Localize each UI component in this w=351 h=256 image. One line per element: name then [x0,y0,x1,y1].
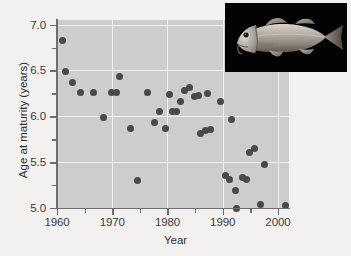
y-axis-tick [50,208,56,209]
x-axis-minor-tick [195,209,196,213]
x-axis-title: Year [0,234,351,246]
fish-icon [225,3,347,72]
gridline-horizontal [57,162,289,163]
x-axis-tick-label: 1980 [145,216,189,228]
gridline-vertical [112,20,113,208]
data-point [127,125,134,132]
x-axis-tick-label: 1990 [201,216,245,228]
y-axis-tick [50,116,56,117]
data-point [195,92,202,99]
data-point [232,187,239,194]
y-axis-minor-tick [52,139,56,140]
data-point [90,89,97,96]
x-axis-minor-tick [85,209,86,213]
x-axis-tick [167,209,168,215]
data-point [173,108,180,115]
y-axis-tick-label: 5.5 [0,156,46,168]
data-point [144,89,151,96]
cod-photograph-inset [225,3,347,72]
x-axis-line [56,208,290,210]
data-point [69,79,76,86]
y-axis-tick [50,25,56,26]
data-point [134,177,141,184]
y-axis-minor-tick [52,93,56,94]
x-axis-minor-tick [140,209,141,213]
x-axis-minor-tick [250,209,251,213]
data-point [186,84,193,91]
gridline-vertical [167,20,168,208]
x-axis-tick [57,209,58,215]
x-axis-tick [112,209,113,215]
gridline-vertical [223,20,224,208]
data-point [100,114,107,121]
gridline-horizontal [57,116,289,117]
data-point [116,73,123,80]
y-axis-tick-label: 6.5 [0,64,46,76]
data-point [113,89,120,96]
y-axis-tick-label: 5.0 [0,202,46,214]
data-point [243,176,250,183]
y-axis-tick [50,162,56,163]
x-axis-tick [278,209,279,215]
data-point [162,125,169,132]
y-axis-tick-label: 7.0 [0,19,46,31]
data-point [156,108,163,115]
data-point [166,91,173,98]
data-point [59,37,66,44]
data-point [251,145,258,152]
data-point [177,98,184,105]
x-axis-tick [223,209,224,215]
figure-canvas: Year Age at maturity (years) [0,0,351,256]
data-point [228,116,235,123]
x-axis-tick-label: 1960 [35,216,79,228]
data-point [62,68,69,75]
data-point [207,126,214,133]
data-point [77,89,84,96]
y-axis-minor-tick [52,48,56,49]
y-axis-minor-tick [52,185,56,186]
data-point [151,119,158,126]
x-axis-tick-label: 2000 [256,216,300,228]
x-axis-tick-label: 1970 [90,216,134,228]
data-point [226,176,233,183]
y-axis-tick [50,70,56,71]
y-axis-tick-label: 6.0 [0,110,46,122]
data-point [261,161,268,168]
y-axis-line [56,19,58,209]
data-point [204,90,211,97]
